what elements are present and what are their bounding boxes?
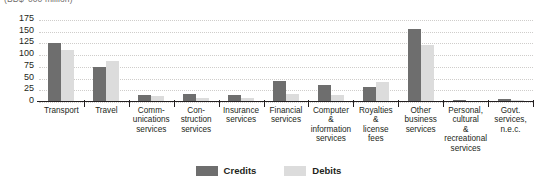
bar-group [443, 20, 488, 102]
category-label-line: & [308, 115, 353, 124]
category-label-line: services, [488, 115, 533, 124]
category-label-line: & [353, 115, 398, 124]
bar-group [398, 20, 443, 102]
bar-debits[interactable] [106, 61, 119, 102]
category-separator-tick [353, 100, 354, 107]
bar-debits[interactable] [61, 50, 74, 102]
category-label: Computer&informationservices [308, 103, 353, 159]
category-label-line: Comm- [129, 106, 174, 115]
x-axis-category-labels: TransportTravelComm-unicationsservicesCo… [39, 103, 533, 159]
category-label-line: Insurance [219, 106, 264, 115]
category-separator-tick [308, 100, 309, 107]
category-separator-tick [264, 100, 265, 107]
category-separator-tick [219, 100, 220, 107]
bar-group [488, 20, 533, 102]
legend: CreditsDebits [0, 165, 537, 176]
category-label-line: Computer [308, 106, 353, 115]
bar-group [219, 20, 264, 102]
bar-group [353, 20, 398, 102]
category-label: Insuranceservices [219, 103, 264, 159]
y-tick-label-75: 75 [24, 61, 34, 70]
category-label: Personal,cultural&recreationalservices [443, 103, 488, 159]
category-separator-tick [398, 100, 399, 107]
bar-debits[interactable] [421, 45, 434, 102]
category-label-line: services [219, 115, 264, 124]
category-separator-tick [174, 100, 175, 107]
category-separator-tick [533, 100, 534, 107]
category-label: Con-structionservices [174, 103, 219, 159]
category-separator-tick [443, 100, 444, 107]
bar-group [264, 20, 309, 102]
category-label: Comm-unicationsservices [129, 103, 174, 159]
category-label-line: recreational [443, 134, 488, 143]
category-label-line: services [174, 125, 219, 134]
category-label-line: Other [398, 106, 443, 115]
bar-group [174, 20, 219, 102]
bar-credits[interactable] [48, 43, 61, 103]
x-axis-line [37, 101, 534, 102]
category-separator-tick [488, 100, 489, 107]
category-separator-tick [129, 100, 130, 107]
bar-credits[interactable] [273, 81, 286, 102]
category-label-line: Con- [174, 106, 219, 115]
y-tick-label-100: 100 [19, 49, 34, 58]
category-label-line: license [353, 125, 398, 134]
category-label: Travel [84, 103, 129, 159]
category-label-line: Transport [39, 106, 84, 115]
category-label-line: cultural [443, 115, 488, 124]
category-label-line: business [398, 115, 443, 124]
category-label-line: information [308, 125, 353, 134]
category-label-line: services [129, 125, 174, 134]
bar-credits[interactable] [93, 67, 106, 102]
legend-swatch-debits [284, 166, 306, 176]
legend-label: Credits [224, 165, 257, 176]
y-axis: 0255075100125150175 [0, 14, 34, 106]
y-tick-label-175: 175 [19, 14, 34, 23]
services-trade-bar-chart: (BD$ '000 million) 0255075100125150175 T… [0, 0, 537, 187]
category-label-line: n.e.c. [488, 125, 533, 134]
legend-entry-debits[interactable]: Debits [284, 165, 341, 176]
category-label-line: fees [353, 134, 398, 143]
legend-label: Debits [312, 165, 341, 176]
category-label-line: services [308, 134, 353, 143]
bar-credits[interactable] [408, 29, 421, 102]
category-label-line: Royalties [353, 106, 398, 115]
legend-swatch-credits [196, 166, 218, 176]
category-label-line: Financial [264, 106, 309, 115]
bar-group [84, 20, 129, 102]
y-tick-label-25: 25 [24, 84, 34, 93]
bar-debits[interactable] [376, 82, 389, 102]
category-label-line: & [443, 125, 488, 134]
bar-credits[interactable] [318, 85, 331, 102]
unit-caption: (BD$ '000 million) [4, 0, 73, 4]
y-tick-label-50: 50 [24, 73, 34, 82]
category-label-line: Travel [84, 106, 129, 115]
category-label: Royalties&licensefees [353, 103, 398, 159]
category-label-line: services [398, 125, 443, 134]
category-label-line: Govt. [488, 106, 533, 115]
category-label-line: Personal, [443, 106, 488, 115]
bar-group [129, 20, 174, 102]
category-label-line: services [443, 144, 488, 153]
category-label: Govt.services,n.e.c. [488, 103, 533, 159]
bar-group [308, 20, 353, 102]
y-tick-label-150: 150 [19, 26, 34, 35]
bars-layer [39, 20, 533, 102]
y-tick-label-125: 125 [19, 37, 34, 46]
legend-entry-credits[interactable]: Credits [196, 165, 257, 176]
bar-credits[interactable] [363, 87, 376, 102]
category-label: Otherbusinessservices [398, 103, 443, 159]
bar-group [39, 20, 84, 102]
category-label-line: unications [129, 115, 174, 124]
category-label-line: services [264, 115, 309, 124]
category-label: Transport [39, 103, 84, 159]
y-tick-label-0: 0 [29, 96, 34, 105]
category-separator-tick [84, 100, 85, 107]
category-label: Financialservices [264, 103, 309, 159]
category-label-line: struction [174, 115, 219, 124]
